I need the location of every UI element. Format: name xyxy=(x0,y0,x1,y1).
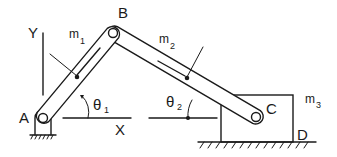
theta2-label: θ xyxy=(166,93,174,110)
diagram-svg: Y B A X C D m 1 m 2 m 3 θ 1 θ 2 xyxy=(0,0,337,157)
joint-b xyxy=(109,29,118,38)
y-axis-label: Y xyxy=(28,24,38,41)
x-axis-label: X xyxy=(115,121,125,138)
m2-centre-of-mass xyxy=(185,76,188,79)
m2-label: m xyxy=(159,32,169,46)
theta1-subscript: 1 xyxy=(104,105,109,115)
m1-subscript: 1 xyxy=(80,36,85,46)
m1-label: m xyxy=(69,27,79,41)
point-c-label: C xyxy=(266,100,277,117)
theta2-vertex xyxy=(187,117,190,120)
joint-a xyxy=(39,114,48,123)
m1-centre-of-mass xyxy=(75,75,78,78)
m3-label: m xyxy=(305,92,315,106)
m2-subscript: 2 xyxy=(170,41,175,51)
joint-c xyxy=(252,113,261,122)
link-2 xyxy=(107,26,263,124)
mechanism-diagram: Y B A X C D m 1 m 2 m 3 θ 1 θ 2 xyxy=(0,0,337,157)
theta2-subscript: 2 xyxy=(177,102,182,112)
theta2-arc xyxy=(188,100,192,118)
theta1-label: θ xyxy=(93,96,101,113)
m3-subscript: 3 xyxy=(316,100,321,110)
theta1-arc xyxy=(82,96,89,118)
m1-pointer xyxy=(50,54,77,76)
point-b-label: B xyxy=(118,4,128,21)
point-a-label: A xyxy=(19,109,29,126)
point-d-label: D xyxy=(297,126,308,143)
